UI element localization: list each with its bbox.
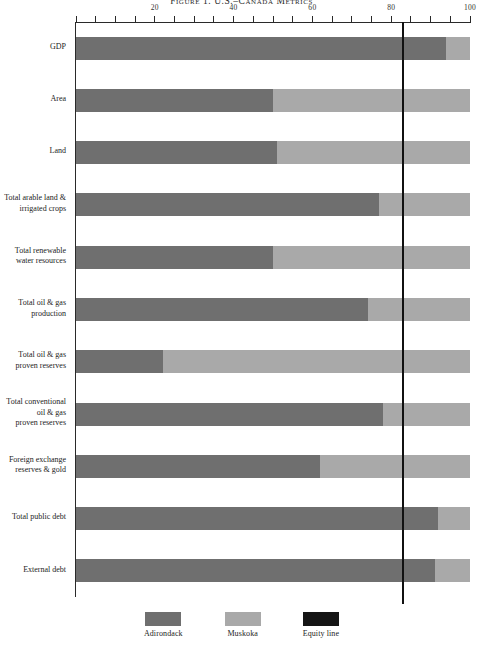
bar-segment-adirondack[interactable] (76, 507, 438, 530)
category-label-line: proven reserves (0, 361, 66, 372)
legend-swatch (145, 612, 181, 626)
bar-segment-muskoka[interactable] (438, 507, 470, 530)
category-label-line: Total oil & gas (0, 298, 66, 309)
plot-area (76, 22, 470, 597)
bar-segment-muskoka[interactable] (273, 246, 470, 269)
bar-track (76, 37, 470, 60)
category-label: External debt (0, 565, 66, 576)
category-label-line: reserves & gold (0, 465, 66, 476)
category-label-line: oil & gas (0, 408, 66, 419)
bar-track (76, 298, 470, 321)
category-label: Total oil & gasproduction (0, 298, 66, 319)
bar-segment-muskoka[interactable] (446, 37, 470, 60)
legend-swatch (303, 612, 339, 626)
category-label-line: irrigated crops (0, 204, 66, 215)
legend-swatch (225, 612, 261, 626)
chart-legend: AdirondackMuskokaEquity line (0, 612, 483, 638)
bar-segment-adirondack[interactable] (76, 298, 368, 321)
bar-segment-adirondack[interactable] (76, 350, 163, 373)
bar-segment-muskoka[interactable] (383, 403, 470, 426)
category-label-line: production (0, 309, 66, 320)
bar-segment-adirondack[interactable] (76, 89, 273, 112)
category-label-line: GDP (0, 42, 66, 53)
category-label: Total conventionaloil & gasproven reserv… (0, 397, 66, 429)
category-label: Total arable land &irrigated crops (0, 193, 66, 214)
bar-row[interactable] (76, 298, 470, 321)
legend-equity-line[interactable]: Equity line (303, 612, 339, 638)
category-label-line: Total oil & gas (0, 350, 66, 361)
bar-segment-adirondack[interactable] (76, 246, 273, 269)
category-label: Area (0, 94, 66, 105)
bar-track (76, 403, 470, 426)
bar-segment-muskoka[interactable] (320, 455, 470, 478)
bar-track (76, 193, 470, 216)
category-label: Foreign exchangereserves & gold (0, 455, 66, 476)
category-label: Total public debt (0, 512, 66, 523)
x-tick-label-60: 60 (308, 3, 316, 12)
category-label: Land (0, 146, 66, 157)
x-tick-label-40: 40 (230, 3, 238, 12)
category-label-line: Area (0, 94, 66, 105)
bar-row[interactable] (76, 559, 470, 582)
category-label: GDP (0, 42, 66, 53)
bar-segment-muskoka[interactable] (277, 141, 470, 164)
category-label-line: Foreign exchange (0, 455, 66, 466)
bar-track (76, 89, 470, 112)
bar-segment-adirondack[interactable] (76, 141, 277, 164)
bar-track (76, 455, 470, 478)
stacked-bar-chart: 20406080100 GDPAreaLandTotal arable land… (0, 0, 483, 645)
bar-row[interactable] (76, 350, 470, 373)
bar-segment-muskoka[interactable] (379, 193, 470, 216)
bar-track (76, 559, 470, 582)
legend-adirondack[interactable]: Adirondack (144, 612, 183, 638)
bar-row[interactable] (76, 403, 470, 426)
bar-row[interactable] (76, 455, 470, 478)
bar-row[interactable] (76, 246, 470, 269)
bar-row[interactable] (76, 193, 470, 216)
bar-segment-muskoka[interactable] (273, 89, 470, 112)
x-tick-label-100: 100 (464, 3, 476, 12)
bar-segment-adirondack[interactable] (76, 37, 446, 60)
bar-row[interactable] (76, 507, 470, 530)
category-label-line: Total public debt (0, 512, 66, 523)
bar-track (76, 246, 470, 269)
category-label-line: Total conventional (0, 397, 66, 408)
category-label-line: water resources (0, 256, 66, 267)
bar-row[interactable] (76, 141, 470, 164)
bar-track (76, 141, 470, 164)
category-label-line: External debt (0, 565, 66, 576)
equity-line-marker (402, 22, 404, 604)
legend-muskoka[interactable]: Muskoka (225, 612, 261, 638)
bar-track (76, 350, 470, 373)
legend-label: Equity line (303, 629, 339, 638)
bar-segment-muskoka[interactable] (163, 350, 470, 373)
category-label: Total oil & gasproven reserves (0, 350, 66, 371)
category-label-line: proven reserves (0, 418, 66, 429)
category-label-line: Total renewable (0, 246, 66, 257)
bar-segment-adirondack[interactable] (76, 193, 379, 216)
bar-segment-adirondack[interactable] (76, 559, 435, 582)
legend-label: Muskoka (227, 629, 257, 638)
bar-segment-muskoka[interactable] (435, 559, 470, 582)
bar-segment-muskoka[interactable] (368, 298, 470, 321)
category-label: Total renewablewater resources (0, 246, 66, 267)
x-tick-label-80: 80 (387, 3, 395, 12)
bar-row[interactable] (76, 37, 470, 60)
category-label-line: Total arable land & (0, 193, 66, 204)
bar-row[interactable] (76, 89, 470, 112)
legend-label: Adirondack (144, 629, 183, 638)
category-label-line: Land (0, 146, 66, 157)
bar-segment-adirondack[interactable] (76, 403, 383, 426)
bar-segment-adirondack[interactable] (76, 455, 320, 478)
x-tick-label-20: 20 (151, 3, 159, 12)
bar-track (76, 507, 470, 530)
